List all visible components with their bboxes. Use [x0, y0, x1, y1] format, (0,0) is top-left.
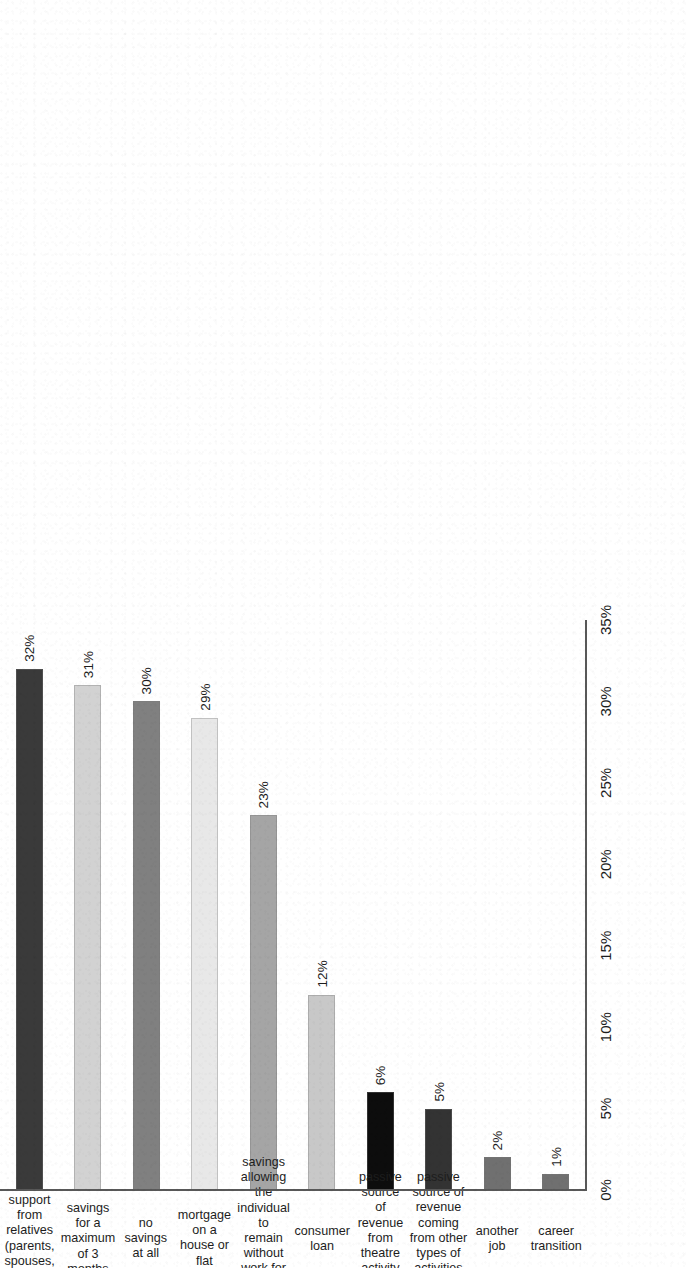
bar-group: 30% — [133, 620, 160, 1190]
bar-value-label: 30% — [139, 667, 154, 694]
category-axis-label: passive source of revenue from theatre a… — [351, 1210, 410, 1268]
value-axis-tick-label: 15% — [597, 931, 614, 961]
bar — [250, 815, 277, 1190]
bar-value-label: 29% — [197, 683, 212, 710]
value-axis-tick-label: 0% — [597, 1179, 614, 1201]
value-axis-tick-label: 5% — [597, 1098, 614, 1120]
bar-value-label: 1% — [548, 1147, 563, 1167]
bar — [191, 718, 218, 1190]
bar-group: 2% — [484, 620, 511, 1190]
value-axis-tick-label: 20% — [597, 849, 614, 879]
bar-group: 31% — [74, 620, 101, 1190]
bar-value-label: 2% — [490, 1131, 505, 1151]
category-axis-label: career transition — [527, 1210, 586, 1268]
chart-canvas: 32%31%30%29%23%12%6%5%2%1% 0%5%10%15%20%… — [0, 0, 690, 1268]
category-axis-label: support from relatives (parents, spouses… — [0, 1210, 59, 1268]
bar-value-label: 12% — [314, 960, 329, 987]
bar-group: 32% — [16, 620, 43, 1190]
value-axis-tick-label: 25% — [597, 768, 614, 798]
category-axis-label: savings allowing the individual to remai… — [234, 1210, 293, 1268]
bar — [74, 685, 101, 1190]
bar — [16, 669, 43, 1190]
bar-value-label: 31% — [80, 651, 95, 678]
bar — [542, 1174, 569, 1190]
category-axis-label: no savings at all — [117, 1210, 176, 1268]
category-axis-label: consumer loan — [293, 1210, 352, 1268]
bar-value-label: 23% — [256, 781, 271, 808]
bar-group: 29% — [191, 620, 218, 1190]
bar-group: 6% — [367, 620, 394, 1190]
bar-value-label: 5% — [431, 1082, 446, 1102]
category-axis-label: another job — [468, 1210, 527, 1268]
bar-group: 12% — [308, 620, 335, 1190]
bar-value-label: 6% — [373, 1066, 388, 1086]
category-axis-line — [0, 1190, 585, 1192]
value-axis-tick-label: 30% — [597, 686, 614, 716]
bar — [484, 1157, 511, 1190]
value-axis-line — [585, 620, 587, 1191]
category-axis-label: passive source of revenue coming from ot… — [410, 1210, 469, 1268]
bar-group: 23% — [250, 620, 277, 1190]
value-axis-tick-label: 35% — [597, 605, 614, 635]
category-axis-label: mortgage on a house or flat — [176, 1210, 235, 1268]
bar-group: 1% — [542, 620, 569, 1190]
bar-value-label: 32% — [22, 635, 37, 662]
bar — [133, 701, 160, 1190]
value-axis-tick-label: 10% — [597, 1012, 614, 1042]
category-axis-label: savings for a maximum of 3 months — [59, 1210, 118, 1268]
bar-group: 5% — [425, 620, 452, 1190]
bar — [308, 995, 335, 1190]
plot-area: 32%31%30%29%23%12%6%5%2%1% — [0, 620, 585, 1190]
